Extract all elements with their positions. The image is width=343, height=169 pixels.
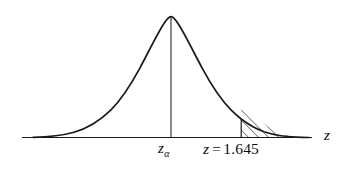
mean-label-symbol: z <box>158 140 164 156</box>
critical-value-label: z=1.645 <box>203 141 259 157</box>
critical-label-operator: = <box>212 140 221 157</box>
normal-distribution-plot <box>0 0 343 169</box>
mean-axis-label: zα <box>158 141 170 159</box>
mean-label-subscript: α <box>164 149 169 159</box>
axis-label-z: z <box>324 128 330 143</box>
critical-label-value: 1.645 <box>223 140 259 157</box>
critical-label-variable: z <box>203 140 209 157</box>
figure-container: zα z=1.645 z <box>0 0 343 169</box>
